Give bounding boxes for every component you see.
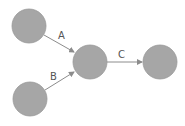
node-source-top (12, 9, 46, 43)
edge-label-a: A (58, 30, 65, 41)
edge-label-b: B (50, 71, 57, 82)
flow-diagram: A B C (0, 0, 185, 126)
edge-label-c: C (118, 49, 125, 60)
node-source-bottom (13, 82, 47, 116)
node-target (143, 45, 177, 79)
node-middle (73, 45, 107, 79)
